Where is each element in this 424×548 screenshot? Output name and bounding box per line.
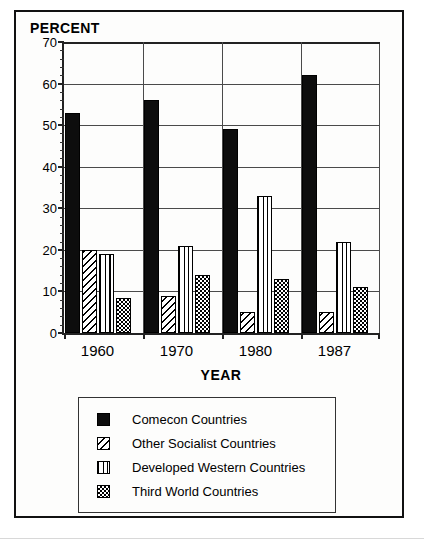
legend-item-label: Other Socialist Countries: [132, 436, 276, 451]
y-axis-title: PERCENT: [30, 20, 100, 36]
y-axis-minor-tick: [60, 75, 64, 76]
bar: [274, 279, 289, 333]
y-axis-minor-tick: [60, 92, 64, 93]
plot-area: 0102030405060701960197019801987: [62, 42, 380, 335]
legend-item: Third World Countries: [79, 479, 335, 503]
y-axis-minor-tick: [60, 175, 64, 176]
y-axis-tick: [58, 290, 64, 292]
legend-item: Comecon Countries: [79, 407, 335, 431]
y-axis-tick-label: 60: [43, 76, 57, 91]
x-axis-tick: [301, 333, 303, 339]
y-axis-minor-tick: [60, 266, 64, 267]
y-axis-minor-tick: [60, 242, 64, 243]
y-axis-minor-tick: [60, 133, 64, 134]
bar: [82, 250, 97, 333]
x-axis-title: YEAR: [62, 367, 380, 383]
bar: [195, 275, 210, 333]
legend: Comecon Countries Other Socialist Countr…: [78, 397, 336, 513]
x-axis-category-label: 1970: [160, 342, 193, 359]
y-axis-minor-tick: [60, 283, 64, 284]
x-axis-category-label: 1987: [318, 342, 351, 359]
bar: [336, 242, 351, 333]
y-axis-minor-tick: [60, 217, 64, 218]
y-axis-tick-label: 20: [43, 242, 57, 257]
y-axis-minor-tick: [60, 316, 64, 317]
scan-bottom-rule: [0, 538, 424, 539]
y-axis-minor-tick: [60, 150, 64, 151]
x-axis-tick: [64, 333, 66, 339]
y-axis-tick: [58, 166, 64, 168]
y-axis-tick-label: 40: [43, 159, 57, 174]
bar: [116, 298, 131, 333]
bar: [99, 254, 114, 333]
y-axis-tick-label: 70: [43, 35, 57, 50]
checkerboard-swatch-icon: [97, 485, 110, 498]
y-axis-minor-tick: [60, 109, 64, 110]
x-axis-tick: [222, 333, 224, 339]
figure-frame: PERCENT 0102030405060701960197019801987 …: [14, 10, 404, 518]
y-axis-tick-label: 0: [50, 326, 57, 341]
y-axis-tick: [58, 83, 64, 85]
bar: [353, 287, 368, 333]
vertical-stripe-swatch-icon: [97, 461, 110, 474]
y-axis-tick: [58, 207, 64, 209]
y-axis-minor-tick: [60, 158, 64, 159]
y-axis-tick-label: 10: [43, 284, 57, 299]
y-axis-minor-tick: [60, 192, 64, 193]
y-axis-minor-tick: [60, 50, 64, 51]
y-axis-minor-tick: [60, 275, 64, 276]
y-axis-tick-label: 50: [43, 118, 57, 133]
y-axis-minor-tick: [60, 100, 64, 101]
bar: [144, 100, 159, 333]
legend-item: Developed Western Countries: [79, 455, 335, 479]
bar: [161, 296, 176, 333]
x-axis-category-label: 1980: [239, 342, 272, 359]
plot-right-edge: [379, 42, 380, 333]
y-axis-tick-label: 30: [43, 201, 57, 216]
bar: [319, 312, 334, 333]
y-axis-minor-tick: [60, 233, 64, 234]
legend-item-label: Comecon Countries: [132, 412, 247, 427]
y-axis-minor-tick: [60, 300, 64, 301]
bar: [223, 129, 238, 333]
legend-item: Other Socialist Countries: [79, 431, 335, 455]
legend-item-label: Third World Countries: [132, 484, 258, 499]
y-axis-tick: [58, 249, 64, 251]
bar: [240, 312, 255, 333]
y-axis-minor-tick: [60, 183, 64, 184]
x-axis-tick: [378, 333, 380, 339]
bar: [302, 75, 317, 333]
y-axis-tick: [58, 41, 64, 43]
y-axis-minor-tick: [60, 200, 64, 201]
solid-black-swatch-icon: [97, 413, 110, 426]
x-axis-category-label: 1960: [81, 342, 114, 359]
legend-item-label: Developed Western Countries: [132, 460, 305, 475]
bar: [257, 196, 272, 333]
x-axis-tick: [143, 333, 145, 339]
bar: [178, 246, 193, 333]
bar: [65, 113, 80, 333]
y-axis-minor-tick: [60, 308, 64, 309]
diagonal-hatch-swatch-icon: [97, 437, 110, 450]
y-axis-minor-tick: [60, 67, 64, 68]
y-axis-minor-tick: [60, 59, 64, 60]
y-axis-minor-tick: [60, 117, 64, 118]
y-axis-minor-tick: [60, 142, 64, 143]
y-axis-tick: [58, 124, 64, 126]
y-axis-minor-tick: [60, 258, 64, 259]
y-axis-minor-tick: [60, 325, 64, 326]
y-axis-minor-tick: [60, 225, 64, 226]
